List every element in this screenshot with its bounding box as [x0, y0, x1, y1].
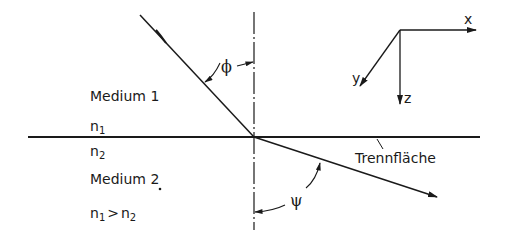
y-axis [360, 30, 400, 86]
angle-phi-label: ϕ [221, 57, 232, 76]
refracted-ray [254, 137, 437, 197]
medium2-index: n2 [90, 143, 105, 161]
angle-psi-label: ψ [290, 191, 303, 210]
phi-arc-left [205, 63, 220, 82]
index-condition: n1>n2 [90, 205, 136, 223]
psi-arc-upper [306, 163, 320, 188]
y-axis-label: y [352, 70, 360, 86]
x-axis-label: x [464, 11, 472, 27]
interface-label: Trennfläche [354, 150, 436, 166]
z-axis-label: z [404, 90, 411, 106]
medium2-label: Medium 2 [90, 171, 159, 187]
incident-ray-arrow-icon [156, 30, 166, 43]
psi-arc-lower [255, 205, 285, 212]
phi-arc-right [237, 62, 253, 66]
incident-ray [140, 15, 254, 137]
stray-mark [159, 188, 162, 191]
medium1-index: n1 [90, 118, 105, 136]
medium1-label: Medium 1 [90, 88, 159, 104]
coordinate-axes: x y z [352, 11, 476, 106]
refraction-diagram: ϕ ψ Trennfläche Medium 1 n1 n2 Medium 2 … [0, 0, 513, 238]
interface-leader [377, 139, 383, 149]
